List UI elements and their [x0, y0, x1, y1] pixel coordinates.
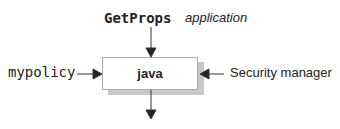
top-arrow-head-icon [146, 48, 156, 57]
connector-arrows [0, 0, 340, 129]
right-arrow-head-icon [200, 69, 209, 79]
bottom-arrow-head-icon [146, 110, 156, 119]
left-arrow-head-icon [93, 69, 102, 79]
